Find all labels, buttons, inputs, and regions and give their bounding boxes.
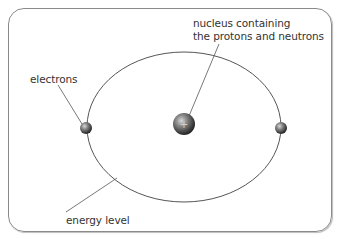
nucleus-label-line2: the protons and neutrons	[193, 30, 324, 43]
energy-level-label: energy level	[66, 214, 130, 227]
electron-right	[275, 122, 287, 134]
nucleus-plus-sign: +	[180, 119, 188, 130]
nucleus-label-line1: nucleus containing	[193, 17, 324, 30]
electron-left	[80, 122, 92, 134]
electrons-label: electrons	[30, 73, 77, 86]
nucleus-label: nucleus containing the protons and neutr…	[193, 17, 324, 43]
energy-level-leader-line	[66, 178, 117, 212]
nucleus-leader-line	[189, 44, 219, 116]
electrons-leader-line	[58, 85, 82, 124]
